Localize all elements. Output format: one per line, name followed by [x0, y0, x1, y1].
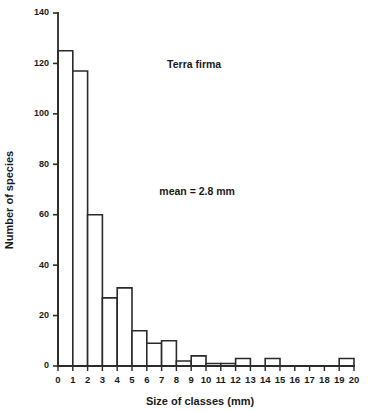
- x-axis-tick-label: 10: [201, 374, 212, 385]
- y-axis-tick-label: 60: [39, 209, 49, 219]
- histogram-bar: [117, 288, 132, 366]
- x-axis-tick-labels: 01234567891011121314151617181920: [55, 374, 359, 385]
- y-axis-tick-label: 80: [39, 159, 49, 169]
- x-axis-tick-label: 4: [115, 374, 121, 385]
- y-axis-tick-labels: 020406080100120140: [34, 7, 49, 370]
- x-axis-tick-label: 1: [70, 374, 76, 385]
- histogram-bar: [339, 358, 354, 366]
- x-axis-tick-label: 12: [230, 374, 241, 385]
- x-axis-tick-label: 7: [159, 374, 164, 385]
- histogram-bar: [147, 343, 162, 366]
- x-axis-tick-label: 6: [144, 374, 149, 385]
- histogram-bar: [265, 358, 280, 366]
- x-axis-tick-label: 3: [100, 374, 105, 385]
- histogram-bar: [162, 341, 177, 366]
- x-axis-tick-label: 14: [260, 374, 271, 385]
- histogram-bar: [191, 356, 206, 366]
- x-axis-tick-label: 0: [55, 374, 60, 385]
- x-axis-tick-label: 16: [290, 374, 301, 385]
- x-axis-tick-label: 8: [174, 374, 179, 385]
- x-axis-tick-label: 15: [275, 374, 286, 385]
- x-axis-tick-label: 18: [319, 374, 330, 385]
- x-axis-title: Size of classes (mm): [146, 395, 255, 407]
- y-axis-tick-label: 40: [39, 260, 49, 270]
- x-axis-tick-label: 9: [189, 374, 194, 385]
- histogram-chart: 020406080100120140 012345678910111213141…: [0, 0, 368, 412]
- histogram-bar: [102, 298, 117, 366]
- y-axis-tick-label: 140: [34, 7, 49, 17]
- x-axis-tick-label: 2: [85, 374, 90, 385]
- x-axis-tick-label: 17: [304, 374, 315, 385]
- x-axis-tick-label: 19: [334, 374, 345, 385]
- x-axis-tick-label: 5: [129, 374, 135, 385]
- y-axis-tick-label: 100: [34, 108, 49, 118]
- y-axis-tick-label: 0: [44, 360, 49, 370]
- x-axis-tick-label: 20: [349, 374, 360, 385]
- x-axis-ticks: [58, 366, 354, 371]
- y-axis-tick-label: 120: [34, 58, 49, 68]
- histogram-bar: [73, 71, 88, 366]
- y-axis-tick-label: 20: [39, 310, 49, 320]
- histogram-bar: [132, 331, 147, 366]
- chart-annotation: Terra firma: [167, 58, 221, 70]
- chart-annotation: mean = 2.8 mm: [159, 185, 235, 197]
- y-axis-title: Number of species: [3, 151, 15, 249]
- chart-canvas: 020406080100120140 012345678910111213141…: [0, 0, 368, 412]
- x-axis-tick-label: 13: [245, 374, 256, 385]
- chart-annotations: Terra firmamean = 2.8 mm: [159, 58, 235, 196]
- histogram-bar: [88, 215, 103, 366]
- bar-series: [58, 51, 354, 366]
- histogram-bar: [236, 358, 251, 366]
- histogram-bar: [58, 51, 73, 366]
- x-axis-tick-label: 11: [216, 374, 227, 385]
